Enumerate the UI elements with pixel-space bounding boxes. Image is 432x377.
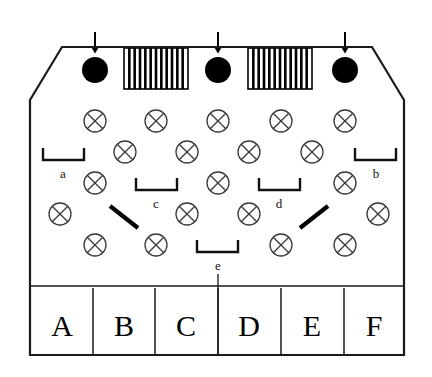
col-D-letter: D bbox=[238, 309, 260, 342]
col-F-letter: F bbox=[366, 309, 383, 342]
crossed-circle bbox=[270, 110, 292, 132]
crossed-circle bbox=[238, 203, 260, 225]
crossed-circle bbox=[334, 110, 356, 132]
crossed-circle bbox=[301, 141, 323, 163]
crossed-circle bbox=[367, 203, 389, 225]
crossed-circle bbox=[145, 110, 167, 132]
crossed-circle bbox=[176, 203, 198, 225]
bracket-e-label: e bbox=[215, 258, 221, 273]
crossed-circle bbox=[84, 110, 106, 132]
bracket-d-label: d bbox=[276, 196, 283, 211]
crossed-circle bbox=[84, 172, 106, 194]
bracket-c-label: c bbox=[153, 196, 159, 211]
bracket-a-label: a bbox=[60, 166, 66, 181]
crossed-circle bbox=[207, 172, 229, 194]
dot-1 bbox=[82, 57, 108, 83]
col-C-letter: C bbox=[176, 309, 196, 342]
crossed-circle bbox=[176, 141, 198, 163]
col-E-letter: E bbox=[303, 309, 321, 342]
diagram-canvas: abcde ABCDEF bbox=[0, 0, 432, 377]
dot-3 bbox=[332, 57, 358, 83]
crossed-circle bbox=[334, 172, 356, 194]
crossed-circle bbox=[114, 141, 136, 163]
col-A-letter: A bbox=[51, 309, 73, 342]
bracket-b-label: b bbox=[373, 166, 380, 181]
crossed-circle bbox=[49, 203, 71, 225]
dot-2 bbox=[205, 57, 231, 83]
hatch-block-1 bbox=[124, 48, 188, 89]
crossed-circle bbox=[238, 141, 260, 163]
crossed-circle bbox=[334, 234, 356, 256]
crossed-circle bbox=[207, 110, 229, 132]
crossed-circle bbox=[145, 234, 167, 256]
col-B-letter: B bbox=[114, 309, 134, 342]
schematic-diagram: abcde ABCDEF bbox=[0, 0, 432, 377]
crossed-circle bbox=[270, 234, 292, 256]
crossed-circle bbox=[84, 234, 106, 256]
hatch-block-2 bbox=[248, 48, 312, 89]
